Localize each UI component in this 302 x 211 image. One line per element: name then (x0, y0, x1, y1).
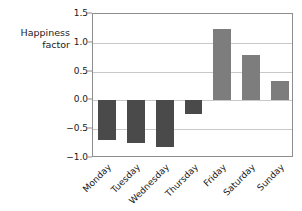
plot-area (92, 13, 293, 157)
bar (213, 29, 231, 100)
bar (271, 81, 289, 101)
bar (185, 100, 203, 114)
gridline (93, 129, 292, 130)
y-axis-tick-label: 0.0 (44, 94, 88, 104)
gridline (93, 72, 292, 73)
bar (242, 55, 260, 100)
bar (127, 100, 145, 143)
y-axis-tick-label: −1.0 (44, 152, 88, 162)
y-axis-tick-label: 1.5 (44, 8, 88, 18)
y-axis-tick-label: 1.0 (44, 37, 88, 47)
bar-chart: Happiness factor 1.51.00.50.0−0.5−1.0 Mo… (0, 0, 302, 211)
gridline (93, 43, 292, 44)
bar (156, 100, 174, 147)
y-axis-tick-label: 0.5 (44, 66, 88, 76)
bar (98, 100, 116, 140)
y-axis-tick-label: −0.5 (44, 123, 88, 133)
